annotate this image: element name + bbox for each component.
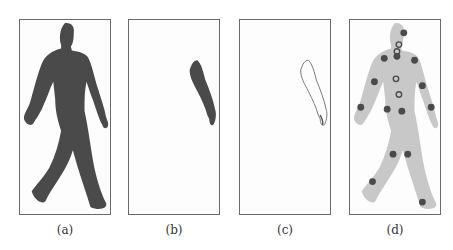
walking-silhouette-dark — [20, 20, 110, 214]
panel-d-joint-markers — [349, 19, 441, 215]
caption-a: (a) — [19, 223, 111, 237]
arm-segment-dark — [129, 20, 219, 214]
caption-b: (b) — [128, 223, 220, 237]
panel-a-silhouette — [19, 19, 111, 215]
caption-d: (d) — [349, 223, 441, 237]
caption-c: (c) — [239, 223, 331, 237]
panel-c-arm-contour — [239, 19, 331, 215]
arm-contour-outline — [240, 20, 330, 214]
walking-silhouette-light — [350, 20, 440, 214]
panel-b-arm-segment — [128, 19, 220, 215]
